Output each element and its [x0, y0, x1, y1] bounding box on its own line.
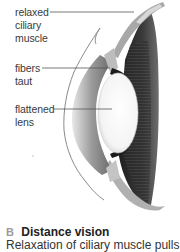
label-line: lens	[15, 116, 54, 129]
label-line: flattened	[15, 103, 54, 116]
flattened-lens-shape	[98, 73, 138, 153]
label-line: ciliary	[15, 19, 49, 32]
caption-title: Distance vision	[21, 225, 109, 239]
label-line: muscle	[15, 32, 49, 45]
label-line: relaxed	[15, 6, 49, 19]
label-line: taut	[15, 75, 40, 88]
eye-diagram: relaxed ciliary muscle fibers taut flatt…	[0, 0, 167, 215]
figure-caption: B Distance vision	[6, 225, 109, 239]
caption-letter: B	[6, 226, 14, 238]
label-line: fibers	[15, 62, 40, 75]
caption-body-text: Relaxation of ciliary muscle pulls	[6, 238, 179, 252]
label-fibers-taut: fibers taut	[15, 62, 40, 88]
label-flattened-lens: flattened lens	[15, 103, 54, 129]
label-relaxed-ciliary-muscle: relaxed ciliary muscle	[15, 6, 49, 45]
